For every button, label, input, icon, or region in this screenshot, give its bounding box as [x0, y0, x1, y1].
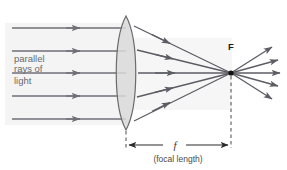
- optics-diagram-canvas: F f (focal length) parallel rays of ligh…: [0, 0, 287, 170]
- focal-length-dimension: f: [129, 139, 228, 151]
- parallel-rays-label-line2: rays of: [14, 63, 43, 74]
- diverging-ray-2: [231, 60, 278, 73]
- focal-length-caption: (focal length): [153, 154, 202, 164]
- diverging-ray-5: [231, 73, 272, 99]
- focal-point-label: F: [228, 41, 234, 52]
- focal-length-symbol: f: [173, 139, 178, 151]
- diverging-ray-4: [231, 73, 278, 86]
- diverging-rays-group: [231, 47, 280, 99]
- focal-point-dot: [228, 70, 233, 75]
- diverging-ray-1: [231, 47, 272, 73]
- parallel-rays-label-line3: light: [14, 75, 32, 86]
- ray-diagram-figure: F f (focal length) parallel rays of ligh…: [0, 0, 287, 170]
